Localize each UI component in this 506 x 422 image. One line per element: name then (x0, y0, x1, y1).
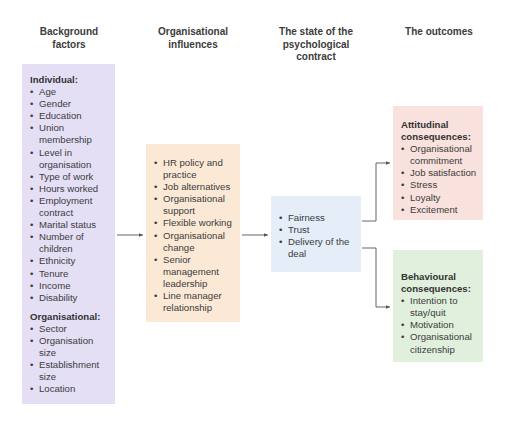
arrow-state-to-attitudinal (362, 163, 390, 221)
connector-arrows (0, 0, 506, 422)
arrow-state-to-behavioural (362, 248, 390, 307)
